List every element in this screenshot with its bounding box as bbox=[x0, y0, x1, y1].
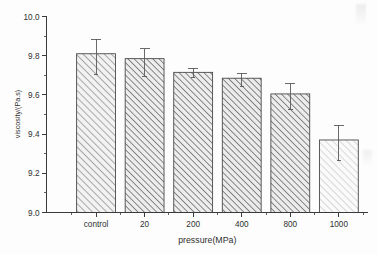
y-tick-label-9.4: 9.4 bbox=[28, 130, 40, 139]
x-tick-label-800: 800 bbox=[283, 220, 297, 229]
bar-400 bbox=[222, 78, 261, 212]
y-tick-label-9.8: 9.8 bbox=[28, 52, 40, 61]
x-tick-label-200: 200 bbox=[186, 220, 200, 229]
x-tick-label-400: 400 bbox=[235, 220, 249, 229]
y-tick-label-10.0: 10.0 bbox=[24, 13, 40, 22]
y-axis-title: viscosity/(Pa.s) bbox=[13, 90, 22, 138]
x-tick-label-1000: 1000 bbox=[330, 220, 349, 229]
bar-200 bbox=[174, 72, 213, 212]
bar-20 bbox=[125, 59, 164, 213]
bar-chart-plot: 10.09.89.69.49.29.0control20200400800100… bbox=[0, 0, 378, 255]
bar-800 bbox=[271, 94, 310, 213]
y-tick-label-9.0: 9.0 bbox=[28, 209, 40, 218]
x-axis-title: pressure(MPa) bbox=[178, 235, 236, 245]
figure-canvas: 10.09.89.69.49.29.0control20200400800100… bbox=[0, 0, 378, 255]
x-tick-label-control: control bbox=[84, 220, 109, 229]
bar-control bbox=[77, 54, 116, 213]
x-tick-label-20: 20 bbox=[140, 220, 150, 229]
y-tick-label-9.6: 9.6 bbox=[28, 91, 40, 100]
bars-layer bbox=[77, 54, 359, 213]
y-tick-label-9.2: 9.2 bbox=[28, 169, 40, 178]
